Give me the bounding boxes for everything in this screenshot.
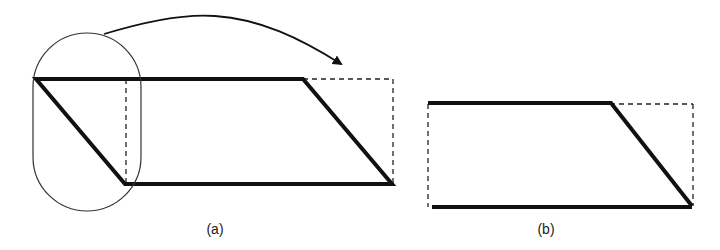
parallelogram — [36, 79, 392, 184]
panel-b-label: (b) — [537, 221, 554, 237]
diagram-canvas — [0, 0, 720, 250]
dashed-rectangle-a — [126, 79, 393, 184]
panel-b — [428, 103, 693, 207]
panel-a-label: (a) — [206, 221, 223, 237]
trapezoid — [428, 103, 692, 206]
move-arrow — [104, 16, 341, 64]
panel-a — [33, 16, 393, 211]
